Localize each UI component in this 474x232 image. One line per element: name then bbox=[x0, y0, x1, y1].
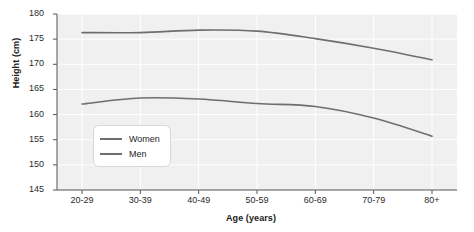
x-axis-ticks bbox=[82, 190, 432, 194]
x-tick-label: 70-79 bbox=[344, 195, 404, 205]
y-tick-label: 165 bbox=[18, 84, 44, 93]
y-tick-label: 175 bbox=[18, 34, 44, 43]
x-tick-label: 50-59 bbox=[227, 195, 287, 205]
y-tick-label: 160 bbox=[18, 110, 44, 119]
chart-legend[interactable]: Women Men bbox=[93, 125, 171, 167]
x-tick-label: 40-49 bbox=[169, 195, 229, 205]
y-tick-label: 180 bbox=[18, 9, 44, 18]
y-tick-label: 155 bbox=[18, 135, 44, 144]
x-tick-label: 20-29 bbox=[52, 195, 112, 205]
y-tick-label: 170 bbox=[18, 59, 44, 68]
legend-swatch-men bbox=[100, 153, 122, 155]
x-tick-label: 60-69 bbox=[285, 195, 345, 205]
legend-item-women[interactable]: Women bbox=[100, 131, 160, 146]
x-axis-title: Age (years) bbox=[56, 213, 446, 223]
legend-label-men: Men bbox=[129, 149, 147, 159]
x-tick-label: 30-39 bbox=[110, 195, 170, 205]
y-tick-label: 145 bbox=[18, 185, 44, 194]
legend-item-men[interactable]: Men bbox=[100, 146, 160, 161]
y-axis-title: Height (cm) bbox=[11, 3, 21, 123]
line-chart: 145150155160165170175180 Height (cm) Age… bbox=[0, 0, 474, 232]
x-tick-label: 80+ bbox=[402, 195, 462, 205]
legend-swatch-women bbox=[100, 138, 122, 140]
legend-label-women: Women bbox=[129, 134, 160, 144]
y-axis-ticks bbox=[53, 14, 57, 190]
y-tick-label: 150 bbox=[18, 160, 44, 169]
